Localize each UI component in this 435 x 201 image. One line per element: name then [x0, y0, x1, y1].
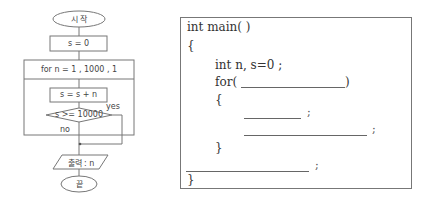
yes-label: yes: [106, 102, 120, 111]
semicolon-3: ;: [315, 159, 319, 172]
for-blank[interactable]: [241, 87, 345, 88]
code-line-for: for(: [215, 75, 237, 89]
flowchart: 시 작 s = 0 for n = 1 , 1000 , 1 s = s + n…: [0, 0, 170, 201]
semicolon-1: ;: [307, 106, 311, 119]
semicolon-2: ;: [372, 123, 376, 136]
statement-blank-2[interactable]: [244, 135, 367, 136]
body-label: s = s + n: [50, 90, 107, 99]
condition-label: s >= 10000: [50, 110, 108, 119]
code-line-close-brace: }: [187, 173, 195, 187]
code-line-main: int main( ): [187, 20, 250, 34]
loop-label: for n = 1 , 1000 , 1: [24, 65, 134, 74]
statement-blank-1[interactable]: [244, 118, 301, 119]
flowchart-shapes: [0, 0, 170, 201]
no-label: no: [60, 125, 70, 134]
code-line-inner-open-brace: {: [215, 93, 223, 107]
code-line-decl: int n, s=0 ;: [215, 58, 282, 72]
end-label: 끝: [61, 178, 97, 189]
statement-blank-3[interactable]: [186, 171, 309, 172]
code-line-for-close: ): [345, 75, 350, 89]
code-box: int main( ) { int n, s=0 ; for( ) { ; ; …: [180, 17, 412, 189]
start-label: 시 작: [53, 13, 105, 24]
output-label: 출력 : n: [56, 157, 106, 168]
code-line-open-brace: {: [187, 39, 195, 53]
init-label: s = 0: [50, 39, 107, 48]
code-line-inner-close-brace: }: [215, 141, 223, 155]
